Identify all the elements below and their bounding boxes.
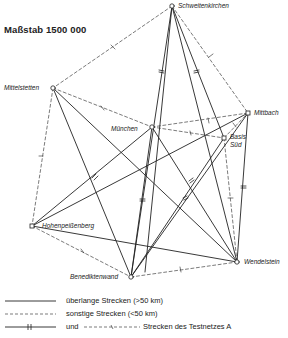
label-muenchen: München bbox=[111, 125, 138, 132]
legend-test-label: Strecken des Testnetzes A bbox=[143, 322, 231, 331]
label-benediktenwand: Benediktenwand bbox=[70, 273, 118, 280]
dashed-lines bbox=[32, 6, 248, 277]
label-schweitenkirchen: Schweitenkirchen bbox=[178, 2, 229, 9]
legend-test-prefix: und bbox=[66, 322, 79, 331]
label-hohenpeissenberg: Hohenpeißenberg bbox=[42, 222, 94, 229]
test-dashed-ticks bbox=[39, 45, 236, 272]
solid-lines bbox=[32, 6, 248, 277]
label-basis-sued-2: Süd bbox=[230, 141, 242, 148]
label-mittelstetten: Mittelstetten bbox=[4, 84, 39, 91]
station-markers bbox=[30, 4, 250, 279]
label-basis-sued-1: Basis bbox=[230, 133, 246, 140]
label-wendelstein: Wendelstein bbox=[244, 258, 280, 265]
legend-solid-label: überlange Strecken (>50 km) bbox=[66, 296, 163, 305]
label-mittbach: Mittbach bbox=[254, 109, 279, 116]
legend-dashed-label: sonstige Strecken (<50 km) bbox=[66, 309, 158, 318]
network-lines bbox=[0, 0, 288, 338]
